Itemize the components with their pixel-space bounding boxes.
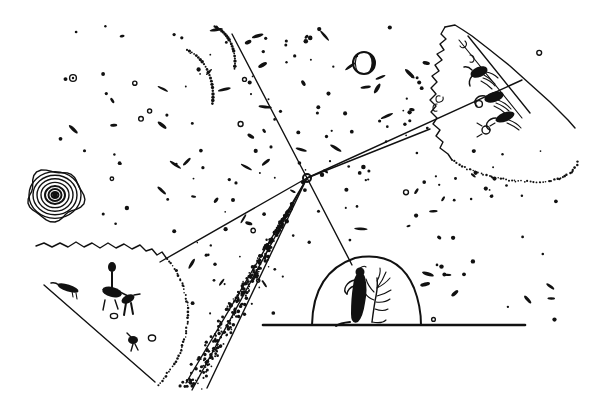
star-dot — [501, 153, 503, 155]
star-dot — [284, 44, 287, 47]
star-dot — [361, 165, 366, 170]
star-dot — [125, 206, 129, 210]
beam-dot — [226, 334, 228, 336]
star-streak — [421, 270, 434, 277]
beam-dot — [257, 257, 259, 259]
star-dot — [224, 211, 226, 213]
star-dot — [251, 303, 253, 305]
slope-rim-dot — [177, 274, 180, 277]
beam-dot — [212, 340, 215, 343]
mound-rim-dot — [485, 174, 487, 176]
beam-dot — [285, 212, 287, 214]
beam-dot — [197, 358, 200, 361]
mound-rim-dot — [540, 182, 542, 184]
mound-rim-dot — [558, 178, 560, 180]
star-streak — [414, 188, 420, 195]
beam-dot — [248, 272, 250, 274]
star-dot — [254, 149, 258, 153]
beam-dot — [204, 344, 206, 346]
star-dot — [552, 317, 556, 321]
star-dot — [471, 259, 475, 263]
beam-dot — [258, 255, 260, 257]
arc-dot — [210, 83, 213, 86]
slope-rim-dot — [187, 307, 190, 310]
star-streak — [329, 143, 342, 152]
slope-rim-dot — [187, 323, 189, 325]
slope-rim-dot — [187, 317, 189, 319]
beam-dot — [205, 371, 207, 373]
beam-dot — [254, 272, 257, 275]
beam-dot — [205, 374, 208, 377]
star-streak — [295, 147, 307, 153]
slope-rim-dot — [182, 284, 184, 286]
beam-dot — [235, 297, 238, 300]
mound-rim-dot — [469, 168, 471, 170]
star-dot — [264, 37, 267, 40]
beam-dot — [233, 300, 235, 302]
star-ring — [110, 177, 113, 180]
arc-dot — [193, 53, 195, 55]
beam-dot — [259, 263, 261, 265]
slope-rim-dot — [185, 330, 187, 332]
beam-dot — [247, 279, 249, 281]
beam-dot — [277, 228, 280, 231]
beam-dot — [236, 294, 239, 297]
beam-dot — [243, 303, 246, 306]
arc-dot — [186, 49, 188, 51]
slope-rim-dot — [157, 384, 159, 386]
mound-rim-dot — [565, 174, 567, 176]
beam-dot — [194, 367, 197, 370]
mound-rim-dot — [451, 159, 453, 161]
beam-dot — [242, 281, 244, 283]
star-dot — [104, 25, 106, 27]
star-dot — [492, 194, 494, 196]
slope-rim-dot — [185, 300, 188, 303]
beam-dot — [241, 282, 245, 286]
star-dot — [453, 199, 456, 202]
arc-dot — [208, 74, 210, 76]
beam-dot — [231, 311, 234, 314]
beam-dot — [256, 260, 259, 263]
star-dot — [234, 181, 237, 184]
slope-rim-dot — [185, 298, 187, 300]
star-dot — [292, 234, 295, 237]
star-streak — [218, 86, 231, 92]
seated-figure — [336, 266, 367, 326]
star-dot — [317, 210, 320, 213]
beam-dot — [205, 361, 208, 364]
arc-dot — [203, 63, 205, 65]
beam-dot — [235, 300, 238, 303]
arc-dot — [191, 52, 193, 54]
beam-dot — [217, 332, 220, 335]
slope-rim-dot — [165, 375, 167, 377]
star-dot — [317, 27, 321, 31]
slope-rim-dot — [175, 269, 178, 272]
beam-dot — [217, 329, 219, 331]
star-dot — [403, 123, 406, 126]
mound-rim-dot — [517, 180, 519, 182]
slope-rim-dot — [187, 305, 189, 307]
star-dot — [414, 213, 418, 217]
beam-dot — [282, 223, 284, 225]
star-dot — [407, 110, 411, 114]
beam-dot — [232, 323, 236, 327]
star-dot — [274, 177, 276, 179]
star-dot — [75, 31, 78, 34]
star-streak — [360, 85, 371, 89]
beam-dot — [200, 365, 203, 368]
mound-rim-dot — [526, 180, 528, 182]
star-dot — [293, 54, 296, 57]
beam-dot — [202, 377, 204, 379]
beam-dot — [266, 250, 269, 253]
star-streak — [406, 224, 411, 227]
beam-dot — [203, 365, 205, 367]
slope-rim-dot — [166, 372, 168, 374]
mound-rim-dot — [461, 165, 463, 167]
lower-centre-dome — [312, 257, 421, 326]
star-dot — [454, 177, 457, 180]
star-dot — [191, 122, 194, 125]
star-ring — [139, 116, 144, 121]
mound-rim-dot — [464, 166, 466, 168]
beam-dot — [200, 358, 202, 360]
star-ring — [243, 77, 247, 81]
